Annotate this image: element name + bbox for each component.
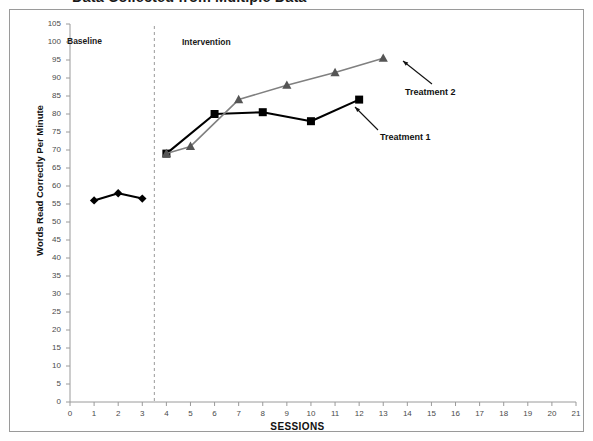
x-axis-tick-label: 0 [62,409,78,418]
annotation-treatment-1: Treatment 1 [380,132,431,142]
y-axis-tick-label: 5 [39,379,61,388]
y-axis-tick-label: 20 [39,325,61,334]
x-axis-tick-label: 17 [472,409,488,418]
annotation-treatment-2: Treatment 2 [405,87,456,97]
y-axis-tick-label: 105 [39,19,61,28]
x-axis-tick-label: 12 [351,409,367,418]
chart-frame: 0510152025303540455055606570758085909510… [9,9,584,432]
x-axis-tick-label: 7 [231,409,247,418]
x-axis-tick-label: 5 [182,409,198,418]
x-axis-tick-label: 13 [375,409,391,418]
page-title: Data Collected from Multiple Data [72,0,472,5]
y-axis-tick-label: 10 [39,361,61,370]
x-axis-tick-label: 10 [303,409,319,418]
x-axis-tick-label: 21 [568,409,584,418]
phase-label-baseline: Baseline [67,36,102,46]
x-axis-tick-label: 11 [327,409,343,418]
x-axis-tick-label: 14 [399,409,415,418]
y-axis-title: Words Read Correctly Per Minute [34,86,45,276]
y-axis-tick-label: 25 [39,307,61,316]
plot-area: 0510152025303540455055606570758085909510… [10,10,585,433]
x-axis-tick-label: 15 [423,409,439,418]
x-axis-tick-label: 20 [544,409,560,418]
x-axis-title: SESSIONS [10,421,585,432]
x-axis-tick-label: 18 [496,409,512,418]
x-axis-tick-label: 4 [158,409,174,418]
x-axis-tick-label: 2 [110,409,126,418]
chart-page: Data Collected from Multiple Data 051015… [0,0,593,441]
y-axis-tick-label: 30 [39,289,61,298]
x-axis-tick-label: 3 [134,409,150,418]
phase-label-intervention: Intervention [182,37,231,47]
y-axis-tick-label: 15 [39,343,61,352]
y-axis-tick-label: 95 [39,55,61,64]
x-axis-tick-label: 8 [255,409,271,418]
chart-svg [10,10,585,433]
x-axis-tick-label: 6 [207,409,223,418]
y-axis-tick-label: 0 [39,397,61,406]
y-axis-tick-label: 90 [39,73,61,82]
x-axis-tick-label: 1 [86,409,102,418]
x-axis-tick-label: 16 [448,409,464,418]
x-axis-tick-label: 9 [279,409,295,418]
y-axis-tick-label: 100 [39,37,61,46]
x-axis-tick-label: 19 [520,409,536,418]
